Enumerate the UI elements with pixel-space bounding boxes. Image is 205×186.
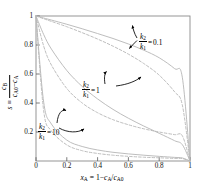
annotation-ratio-0.1: k2 k1 =0.1: [139, 33, 162, 52]
k1-subscript: 1: [42, 135, 45, 141]
x-tick-label-4: 0.8: [155, 162, 164, 170]
y-axis-label-fraction: cB cA0−cA: [0, 75, 20, 99]
annotation-ratio-1: k2 k1 =1: [82, 81, 100, 100]
y-den-c2: c: [10, 80, 19, 83]
y-den-sub1: A0: [13, 87, 19, 94]
x-axis-label-den-sub: A0: [117, 176, 124, 182]
y-tick-label-1: 0.8: [14, 41, 33, 49]
y-axis-label-equiv: ≡: [5, 100, 14, 104]
x-tick-label-5: 1: [188, 162, 192, 170]
x-axis-label-eq: =: [90, 173, 94, 182]
y-den-sub2: A: [13, 76, 19, 80]
k2-subscript: 2: [86, 83, 89, 89]
k1-subscript: 1: [143, 45, 146, 51]
x-tick-label-3: 0.6: [124, 162, 133, 170]
annotation-ratio-10: k2 k1 =10: [38, 123, 60, 142]
k1-subscript: 1: [86, 93, 89, 99]
annotation-1-denominator: k1: [82, 90, 90, 99]
x-tick-label-2: 0.4: [93, 162, 102, 170]
x-axis-label-var-sub: A: [84, 176, 88, 182]
y-den-c1: c: [10, 94, 19, 97]
annotation-10-fraction: k2 k1: [38, 123, 46, 142]
x-tick-label-1: 0.2: [62, 162, 71, 170]
y-axis-label-denominator: cA0−cA: [11, 75, 20, 99]
annotation-0.1-denominator: k1: [139, 42, 147, 51]
k2-subscript: 2: [143, 35, 146, 41]
y-axis-label: s ≡ cB cA0−cA: [0, 52, 20, 132]
x-tick-label-0: 0: [34, 162, 38, 170]
y-tick-label-0: 1: [20, 12, 33, 20]
y-axis-label-s: s: [5, 106, 14, 109]
k2-subscript: 2: [42, 125, 45, 131]
figure: 0 0.2 0.4 0.6 0.8 1 1 0.8 0.6 0.4 0.2 xA…: [0, 0, 205, 186]
y-num-c: c: [0, 87, 8, 90]
annotation-10-value: 10: [51, 128, 59, 137]
annotation-0.1-value: 0.1: [152, 38, 162, 47]
annotation-10-denominator: k1: [38, 132, 46, 141]
x-axis-label: xA = 1−cA/cA0: [80, 173, 123, 182]
annotation-0.1-fraction: k2 k1: [139, 33, 147, 52]
annotation-1-fraction: k2 k1: [82, 81, 90, 100]
y-num-sub: B: [2, 83, 8, 87]
y-den-minus: −: [10, 83, 19, 87]
chart-canvas: [0, 0, 205, 186]
annotation-1-value: 1: [95, 86, 100, 95]
